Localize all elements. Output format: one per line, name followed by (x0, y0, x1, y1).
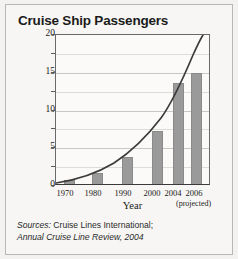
source-line-1-text: Cruise Lines International; (51, 220, 153, 230)
y-tick-label-5: 5 (31, 141, 55, 151)
source-label: Sources: (17, 220, 51, 230)
y-tick-label-20: 20 (31, 28, 55, 38)
chart-title: Cruise Ship Passengers (18, 13, 168, 28)
source-note: Sources: Cruise Lines International; Ann… (17, 219, 222, 243)
y-tick-mark-0 (51, 185, 55, 186)
y-tick-label-15: 15 (31, 66, 55, 76)
source-line-1: Sources: Cruise Lines International; (17, 219, 222, 231)
x-tick-label-1990: 1990 (109, 188, 137, 198)
y-tick-label-10: 10 (31, 104, 55, 114)
x-tick-label-1970: 1970 (51, 188, 79, 198)
source-line-2: Annual Cruise Line Review, 2004 (17, 231, 222, 243)
plot-area (55, 34, 210, 185)
x-tick-label-1980: 1980 (79, 188, 107, 198)
x-tick-label-2006: 2006 (180, 188, 208, 198)
x-axis-label: Year (55, 200, 210, 211)
chart-figure: Cruise Ship Passengers Number of passeng… (0, 0, 238, 259)
trend-curve (56, 35, 210, 185)
